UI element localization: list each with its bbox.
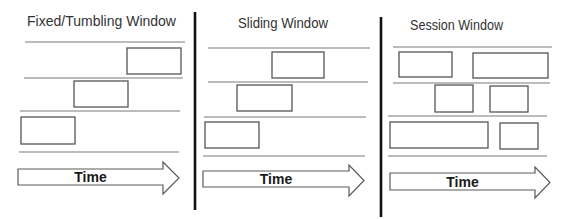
windowing-diagram: Fixed/Tumbling WindowTimeSliding WindowT… bbox=[0, 0, 568, 219]
time-label: Time bbox=[446, 174, 479, 190]
panel-sliding: Sliding WindowTime bbox=[203, 15, 370, 196]
window-box bbox=[490, 86, 528, 112]
panels: Fixed/Tumbling WindowTimeSliding WindowT… bbox=[18, 13, 552, 198]
time-label: Time bbox=[260, 171, 293, 187]
panel-title: Fixed/Tumbling Window bbox=[27, 13, 177, 29]
panel-title: Session Window bbox=[410, 17, 504, 33]
window-box bbox=[272, 52, 324, 78]
window-box bbox=[399, 52, 452, 77]
panel-title: Sliding Window bbox=[238, 15, 329, 31]
window-box bbox=[127, 48, 181, 74]
window-box bbox=[390, 122, 488, 148]
time-label: Time bbox=[74, 169, 107, 185]
window-box bbox=[205, 122, 259, 148]
window-box bbox=[74, 81, 128, 107]
window-box bbox=[500, 123, 538, 149]
panel-fixed: Fixed/Tumbling WindowTime bbox=[18, 13, 185, 194]
time-arrow: Time bbox=[390, 167, 550, 198]
time-arrow: Time bbox=[18, 162, 179, 194]
window-box bbox=[21, 117, 75, 144]
window-box bbox=[435, 85, 473, 112]
window-box bbox=[473, 53, 548, 78]
panel-session: Session WindowTime bbox=[388, 17, 552, 198]
time-arrow: Time bbox=[203, 165, 364, 196]
window-box bbox=[237, 85, 292, 111]
